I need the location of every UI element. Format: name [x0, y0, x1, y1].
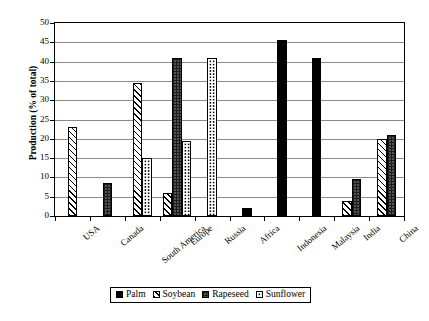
y-tick-mark [50, 62, 54, 63]
bar-soybean-usa [68, 127, 78, 216]
bar-rapeseed-china [387, 135, 397, 216]
legend-swatch-rapeseed-icon [202, 291, 209, 298]
bar-sunflower-europe [182, 141, 192, 216]
legend-label: Soybean [163, 289, 196, 300]
bar-group [369, 23, 404, 216]
bar-group [264, 23, 299, 216]
y-tick-mark [50, 120, 54, 121]
bar-soybean-south-america [133, 83, 143, 216]
y-tick-label: 0 [23, 211, 49, 220]
bar-sunflower-russia [207, 58, 217, 216]
x-tick-mark [334, 217, 335, 221]
x-tick-mark [125, 217, 126, 221]
bar-group [299, 23, 334, 216]
x-tick-mark [195, 217, 196, 221]
y-tick-label: 50 [23, 18, 49, 27]
y-tick-label: 20 [23, 134, 49, 143]
x-tick-mark [299, 217, 300, 221]
bar-group [125, 23, 160, 216]
bar-rapeseed-canada [103, 183, 113, 216]
legend-swatch-soybean-icon [153, 291, 160, 298]
bar-soybean-europe [163, 193, 173, 216]
x-tick-label: Africa [257, 223, 281, 245]
y-tick-mark [50, 42, 54, 43]
y-tick-label: 45 [23, 37, 49, 46]
bars-layer [55, 23, 404, 216]
legend-item-palm[interactable]: Palm [116, 289, 146, 300]
x-tick-label: India [361, 223, 382, 243]
y-tick-label: 5 [23, 192, 49, 201]
bar-rapeseed-india [352, 179, 362, 216]
bar-group [334, 23, 369, 216]
legend-item-rapeseed[interactable]: Rapeseed [202, 289, 248, 300]
legend-swatch-palm-icon [116, 291, 123, 298]
x-tick-label: China [397, 223, 420, 244]
legend-item-soybean[interactable]: Soybean [153, 289, 196, 300]
y-tick-label: 40 [23, 57, 49, 66]
legend-label: Rapeseed [212, 289, 248, 300]
y-tick-label: 10 [23, 172, 49, 181]
bar-soybean-china [377, 139, 387, 216]
x-tick-label: USA [82, 223, 102, 242]
bar-group [160, 23, 195, 216]
x-tick-mark [264, 217, 265, 221]
bar-palm-africa [242, 208, 252, 216]
y-tick-mark [50, 197, 54, 198]
x-tick-mark [369, 217, 370, 221]
legend-item-sunflower[interactable]: Sunflower [256, 289, 306, 300]
y-tick-mark [50, 139, 54, 140]
bar-chart: Production (% of total) 5045403530252015… [0, 0, 429, 321]
bar-rapeseed-europe [172, 58, 182, 216]
bar-group [195, 23, 230, 216]
bar-group [55, 23, 90, 216]
bar-palm-indonesia [277, 40, 287, 216]
chart-legend: PalmSoybeanRapeseedSunflower [110, 287, 311, 303]
x-tick-mark [90, 217, 91, 221]
x-tick-label: Russia [223, 223, 248, 246]
bar-group [90, 23, 125, 216]
y-tick-mark [50, 216, 54, 217]
y-tick-mark [50, 177, 54, 178]
x-tick-label: Malaysia [329, 223, 361, 252]
x-tick-mark [230, 217, 231, 221]
x-tick-mark [55, 217, 56, 221]
x-tick-label: Indonesia [295, 223, 328, 253]
x-tick-mark [160, 217, 161, 221]
y-tick-mark [50, 158, 54, 159]
bar-group [230, 23, 265, 216]
legend-swatch-sunflower-icon [256, 291, 263, 298]
x-tick-mark [404, 217, 405, 221]
bar-soybean-india [342, 201, 352, 216]
y-tick-mark [50, 100, 54, 101]
y-tick-label: 15 [23, 153, 49, 162]
y-tick-label: 25 [23, 115, 49, 124]
y-tick-mark [50, 23, 54, 24]
legend-label: Sunflower [266, 289, 306, 300]
bar-palm-malaysia [312, 58, 322, 216]
y-tick-label: 35 [23, 76, 49, 85]
bar-sunflower-south-america [142, 158, 152, 216]
x-tick-label: Canada [119, 223, 146, 248]
y-tick-label: 30 [23, 95, 49, 104]
y-tick-mark [50, 81, 54, 82]
legend-label: Palm [126, 289, 146, 300]
